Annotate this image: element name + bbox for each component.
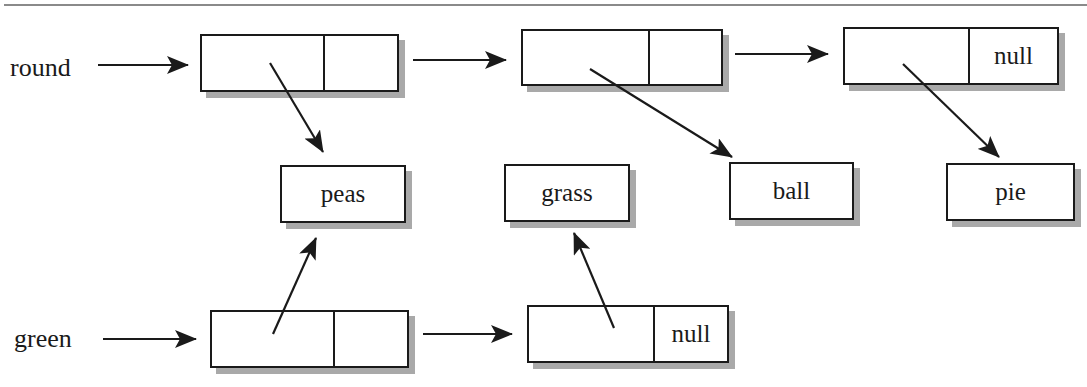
node-data-cell: [523, 31, 650, 84]
node-data-cell: [529, 307, 655, 361]
round-node-3: null: [843, 27, 1059, 85]
node-data-cell: [202, 36, 325, 90]
value-box-grass: grass: [504, 164, 630, 222]
list-label-round: round: [10, 53, 71, 83]
node-next-cell: [335, 312, 407, 366]
node-data-cell: [212, 312, 335, 366]
node-data-cell: [845, 29, 970, 83]
value-box-pie: pie: [946, 163, 1075, 221]
list-label-green: green: [14, 324, 72, 354]
green-node-1: [210, 310, 409, 368]
node-next-cell-null: null: [970, 29, 1057, 83]
node-next-cell: [650, 31, 721, 84]
node-next-cell: [325, 36, 397, 90]
top-rule: [4, 4, 1087, 6]
value-box-peas: peas: [280, 165, 406, 223]
round-node-2: [521, 29, 723, 86]
green-node-2: null: [527, 305, 729, 363]
round-node-1: [200, 34, 399, 92]
value-box-ball: ball: [729, 162, 854, 220]
node-next-cell-null: null: [655, 307, 727, 361]
